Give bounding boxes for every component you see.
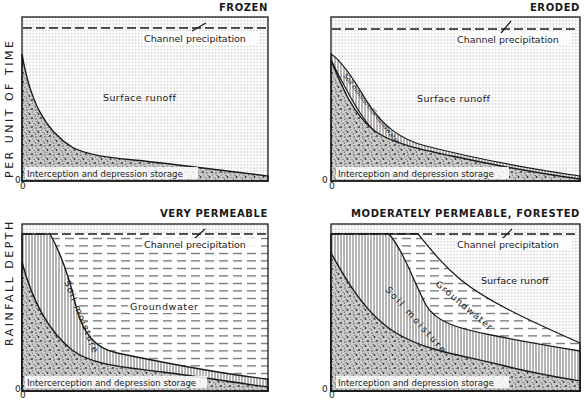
channel-precip-label: Channel precipitation xyxy=(457,239,559,250)
surface-runoff-label: Surface runoff xyxy=(417,93,491,104)
hydrograph-figure: PER UNIT OF TIME RAINFALL DEPTH FROZEN xyxy=(0,0,584,409)
channel-precip-label: Channel precipitation xyxy=(457,34,559,45)
y-axis-label: PER UNIT OF TIME RAINFALL DEPTH xyxy=(0,0,20,409)
panel-moderately-permeable-forested: MODERATELY PERMEABLE, FORESTED xyxy=(331,205,580,405)
origin-x: 0 xyxy=(329,390,335,400)
interception-label: Intercerception and depression storage xyxy=(27,378,196,388)
panel-plot: Channel precipitation Surface runoff Gro… xyxy=(331,205,580,405)
panel-eroded: ERODED xyxy=(331,0,580,200)
channel-precip-label: Channel precipitation xyxy=(144,33,246,44)
surface-runoff-label: Surface runoff xyxy=(103,92,177,103)
origin-x: 0 xyxy=(20,390,26,400)
panel-plot: Channel precipitation Groundwater Soil m… xyxy=(22,205,268,405)
surface-runoff-label: Surface runoff xyxy=(481,275,549,286)
origin-x: 0 xyxy=(329,181,335,191)
y-axis-label-lower: RAINFALL DEPTH xyxy=(3,219,16,346)
y-axis-label-upper: PER UNIT OF TIME xyxy=(3,39,16,178)
interception-label: Interception and depression storage xyxy=(338,378,494,388)
panel-plot: Channel precipitation Surface runoff Soi… xyxy=(331,0,580,200)
interception-label: Interception and depression storage xyxy=(338,169,494,179)
groundwater-label: Groundwater xyxy=(130,301,199,312)
panel-very-permeable: VERY PERMEABLE xyxy=(22,205,268,405)
origin-y: 0 xyxy=(322,384,328,394)
panel-frozen: FROZEN xyxy=(22,0,268,200)
origin-y: 0 xyxy=(322,175,328,185)
channel-precip-label: Channel precipitation xyxy=(144,239,246,250)
interception-label: Interception and depression storage xyxy=(27,169,183,179)
panel-plot: Channel precipitation Surface runoff Int… xyxy=(22,0,268,200)
origin-x: 0 xyxy=(20,181,26,191)
